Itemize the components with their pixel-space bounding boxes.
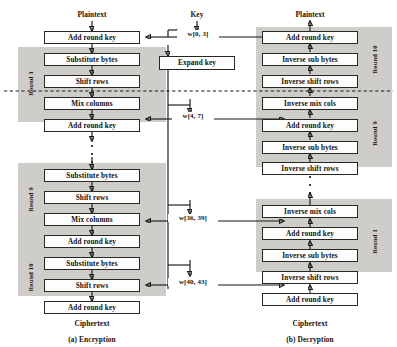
- enc-initial-add-round-key[interactable]: Add round key: [44, 31, 140, 44]
- dec-round1-label: Round 1: [371, 220, 378, 264]
- enc-round1-label: Round 1: [27, 62, 34, 106]
- dec-r1-inverse-sub-bytes[interactable]: Inverse sub bytes: [262, 249, 358, 262]
- dec-r10-inverse-sub-bytes[interactable]: Inverse sub bytes: [262, 53, 358, 66]
- dec-r1-inverse-shift-rows[interactable]: Inverse shift rows: [262, 271, 358, 284]
- dec-r9-inverse-mix-cols[interactable]: Inverse mix cols: [262, 97, 358, 110]
- dec-r9-inverse-sub-bytes[interactable]: Inverse sub bytes: [262, 141, 358, 154]
- dec-r1-add-round-key[interactable]: Add round key: [262, 227, 358, 240]
- enc-r10-add-round-key[interactable]: Add round key: [44, 301, 140, 314]
- enc-r9-add-round-key[interactable]: Add round key: [44, 235, 140, 248]
- enc-round10-label: Round 10: [27, 254, 34, 302]
- dec-round10-label: Round 10: [371, 36, 378, 84]
- aes-cipher-diagram: dec box --> Plaintext Add r: [0, 0, 397, 347]
- enc-r9-substitute-bytes[interactable]: Substitute bytes: [44, 169, 140, 182]
- encryption-caption: (a) Encryption: [42, 336, 142, 344]
- enc-r10-substitute-bytes[interactable]: Substitute bytes: [44, 257, 140, 270]
- enc-r1-substitute-bytes[interactable]: Substitute bytes: [44, 53, 140, 66]
- dec-r10-add-round-key[interactable]: Add round key: [262, 31, 358, 44]
- enc-r1-add-round-key[interactable]: Add round key: [44, 119, 140, 132]
- decryption-caption: (b) Decryption: [260, 336, 360, 344]
- dec-initial-add-round-key[interactable]: Add round key: [262, 293, 358, 306]
- enc-round9-label: Round 9: [27, 178, 34, 222]
- dec-r10-inverse-shift-rows[interactable]: Inverse shift rows: [262, 75, 358, 88]
- expand-key-box[interactable]: Expand key: [159, 56, 235, 70]
- key-word-4-7-label: w[4, 7]: [172, 112, 214, 120]
- enc-r1-mix-columns[interactable]: Mix columns: [44, 97, 140, 110]
- enc-r9-shift-rows[interactable]: Shift rows: [44, 191, 140, 204]
- enc-r10-shift-rows[interactable]: Shift rows: [44, 279, 140, 292]
- dec-r9-add-round-key[interactable]: Add round key: [262, 119, 358, 132]
- enc-plaintext-label: Plaintext: [62, 11, 122, 19]
- enc-ciphertext-label: Ciphertext: [62, 320, 122, 328]
- dec-r1-inverse-mix-cols[interactable]: Inverse mix cols: [262, 205, 358, 218]
- dec-plaintext-label: Plaintext: [280, 11, 340, 19]
- enc-r9-mix-columns[interactable]: Mix columns: [44, 213, 140, 226]
- key-word-0-3-label: w[0, 3]: [177, 30, 219, 38]
- enc-round-ellipsis: [91, 145, 93, 163]
- enc-r1-shift-rows[interactable]: Shift rows: [44, 75, 140, 88]
- dec-ciphertext-label: Ciphertext: [280, 320, 340, 328]
- key-input-label: Key: [182, 11, 212, 19]
- dec-round-ellipsis: [309, 176, 311, 194]
- key-word-36-39-label: w[36, 39]: [168, 214, 218, 222]
- dec-r9-inverse-shift-rows[interactable]: Inverse shift rows: [262, 162, 358, 175]
- key-word-40-43-label: w[40, 43]: [168, 278, 218, 286]
- dec-round9-label: Round 9: [371, 112, 378, 156]
